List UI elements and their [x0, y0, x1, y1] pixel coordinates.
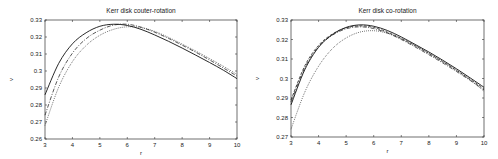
y-tick-label: 0.27 [276, 134, 288, 140]
x-tick-label: 7 [153, 142, 157, 148]
y-tick-label: 0.33 [276, 17, 288, 23]
series-line-dashed [291, 26, 484, 100]
y-tick-label: 0.33 [30, 17, 42, 23]
y-tick-label: 0.3 [280, 76, 289, 82]
x-tick-label: 3 [289, 140, 293, 146]
x-tick-label: 10 [481, 140, 488, 146]
x-tick-label: 5 [344, 140, 348, 146]
chart-title: Kerr disk co-rotation [358, 7, 417, 14]
x-tick-label: 6 [126, 142, 130, 148]
figure-canvas: Kerr disk couter-rotation3456789100.260.… [0, 0, 498, 159]
y-tick-label: 0.31 [276, 56, 288, 62]
y-tick-label: 0.3 [34, 68, 43, 74]
plot-frame [291, 20, 484, 137]
series-line-solid [291, 25, 484, 105]
y-tick-label: 0.26 [30, 136, 42, 142]
series-line-dotted [45, 27, 237, 126]
x-tick-label: 10 [234, 142, 241, 148]
y-tick-label: 0.28 [276, 115, 288, 121]
chart-title: Kerr disk couter-rotation [106, 7, 176, 14]
series-line-solid [45, 24, 237, 95]
series-line-dash-dot [291, 27, 484, 102]
y-tick-label: 0.27 [30, 119, 42, 125]
x-tick-label: 8 [427, 140, 431, 146]
y-tick-label: 0.32 [276, 37, 288, 43]
x-axis-label: r [140, 150, 142, 156]
x-tick-label: 7 [400, 140, 404, 146]
x-tick-label: 4 [71, 142, 75, 148]
y-tick-label: 0.32 [30, 34, 42, 40]
x-tick-label: 5 [98, 142, 102, 148]
y-axis-label: v [8, 78, 14, 81]
y-tick-label: 0.31 [30, 51, 42, 57]
x-tick-label: 9 [455, 140, 459, 146]
x-tick-label: 8 [180, 142, 184, 148]
x-tick-label: 6 [372, 140, 376, 146]
y-tick-label: 0.29 [276, 95, 288, 101]
y-tick-label: 0.29 [30, 85, 42, 91]
x-tick-label: 3 [43, 142, 47, 148]
chart-counter-rotation: Kerr disk couter-rotation3456789100.260.… [8, 7, 241, 156]
x-tick-label: 4 [317, 140, 321, 146]
x-axis-label: r [387, 148, 389, 154]
y-axis-label: v [254, 77, 260, 80]
series-line-dash-dot [45, 24, 237, 115]
chart-co-rotation: Kerr disk co-rotation3456789100.270.280.… [254, 7, 488, 154]
x-tick-label: 9 [208, 142, 212, 148]
y-tick-label: 0.28 [30, 102, 42, 108]
plot-frame [45, 20, 237, 139]
